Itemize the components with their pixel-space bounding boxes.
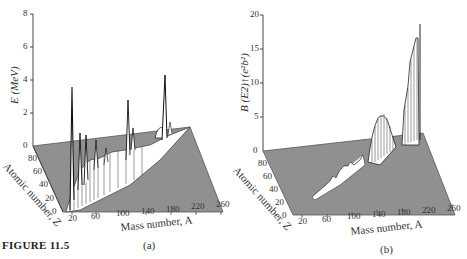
y-tick-0: 0 (253, 145, 258, 155)
y-tick-20: 20 (250, 9, 259, 19)
y-tick-10: 10 (250, 77, 259, 87)
figure-caption: FIGURE 11.5 (2, 239, 69, 251)
panel-label-b: (b) (380, 243, 393, 255)
x-tick-220: 220 (422, 205, 436, 215)
x-tick-20: 20 (298, 216, 307, 226)
y-axis-label: B (E2)↑(e²b²) (238, 53, 250, 112)
x-tick-100: 100 (347, 211, 361, 221)
x-tick-60: 60 (322, 214, 331, 224)
x-tick-180: 180 (397, 207, 411, 217)
x-tick-140: 140 (372, 209, 386, 219)
y-tick-5: 5 (254, 111, 259, 121)
z-tick-80: 80 (258, 158, 267, 168)
y-tick-15: 15 (250, 43, 259, 53)
z-tick-60: 60 (263, 171, 272, 181)
x-tick-260: 260 (447, 203, 461, 213)
z-tick-40: 40 (269, 184, 278, 194)
